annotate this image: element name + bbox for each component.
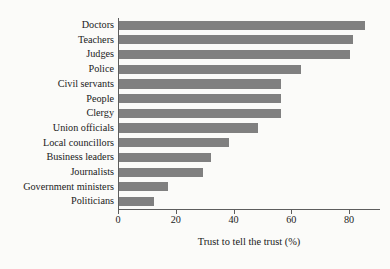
x-axis-tick-label: 0 (98, 214, 138, 225)
bar-row (119, 165, 379, 180)
x-axis-tick (234, 210, 235, 214)
x-axis-tick (176, 210, 177, 214)
bar (119, 50, 350, 59)
x-axis-tick-label: 20 (156, 214, 196, 225)
category-label: Local councillors (0, 137, 114, 148)
bar-row (119, 180, 379, 195)
x-axis-line (118, 209, 380, 210)
bar (119, 21, 365, 30)
bar (119, 35, 353, 44)
bar-series (119, 18, 379, 209)
category-label: Judges (0, 48, 114, 59)
bar-row (119, 136, 379, 151)
bar (119, 138, 229, 147)
x-axis-tick-label: 80 (329, 214, 369, 225)
category-label: Civil servants (0, 78, 114, 89)
bar (119, 168, 203, 177)
bar-row (119, 18, 379, 33)
x-axis-tick-label: 40 (214, 214, 254, 225)
bar (119, 123, 258, 132)
x-axis-tick (349, 210, 350, 214)
bar-row (119, 47, 379, 62)
category-label: Doctors (0, 19, 114, 30)
bar (119, 109, 281, 118)
category-label: Journalists (0, 166, 114, 177)
category-label: Government ministers (0, 181, 114, 192)
bar-row (119, 77, 379, 92)
bar-row (119, 92, 379, 107)
category-label: People (0, 93, 114, 104)
bar-row (119, 106, 379, 121)
category-label: Teachers (0, 34, 114, 45)
x-axis-tick-label: 60 (271, 214, 311, 225)
bar (119, 65, 301, 74)
bar-row (119, 62, 379, 77)
bar (119, 153, 211, 162)
category-label: Politicians (0, 195, 114, 206)
bar-row (119, 150, 379, 165)
bar (119, 94, 281, 103)
x-axis-title: Trust to tell the trust (%) (118, 236, 380, 247)
bar-row (119, 194, 379, 209)
category-label: Union officials (0, 122, 114, 133)
category-label: Business leaders (0, 151, 114, 162)
bar (119, 79, 281, 88)
category-axis-labels: DoctorsTeachersJudgesPoliceCivil servant… (0, 18, 114, 209)
bar-row (119, 33, 379, 48)
x-axis-tick (291, 210, 292, 214)
category-label: Police (0, 63, 114, 74)
bar (119, 182, 168, 191)
bar (119, 197, 154, 206)
x-axis-tick (118, 210, 119, 214)
category-label: Clergy (0, 107, 114, 118)
bar-chart: DoctorsTeachersJudgesPoliceCivil servant… (0, 0, 390, 269)
bar-row (119, 121, 379, 136)
